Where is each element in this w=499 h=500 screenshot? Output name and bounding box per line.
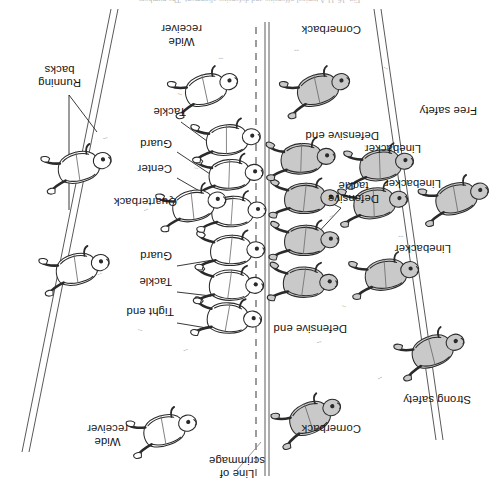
label-center: Center (137, 162, 172, 175)
label-tackle-bot: Tackle (153, 105, 186, 118)
label-tight-end: Tight end (126, 305, 174, 318)
label-defensive-end-up: Defensive end (273, 322, 347, 335)
label-guard-top: Guard (140, 249, 172, 262)
player-figure (193, 228, 266, 274)
label-linebacker-2: Linebacker (385, 177, 441, 190)
label-wide-receiver-top: Wide receiver (87, 423, 128, 448)
label-strong-safety: Strong safety (403, 393, 471, 406)
label-cornerback-bot: Cornerback (302, 23, 361, 36)
player-figure (188, 116, 263, 165)
label-linebacker-1: Linebacker (395, 242, 451, 255)
leader-line-rb-leader-2 (69, 95, 97, 132)
label-defensive-tackle: Defensive tackle (328, 180, 379, 205)
label-linebacker-3: Linebacker (365, 142, 421, 155)
figure-caption: Fig. 16-11 A typical offensive and defen… (0, 0, 499, 4)
label-cornerback-top: Cornerback (302, 422, 361, 435)
label-free-safety: Free safety (419, 104, 477, 117)
label-running-backs: Running backs (38, 64, 81, 89)
player-figure (264, 136, 337, 182)
grass-tuft: ˜˜ (218, 52, 223, 60)
player-figure (267, 218, 340, 264)
grass-tuft: ˜˜ (398, 230, 403, 238)
label-defensive-end-dn: Defensive end (305, 129, 379, 142)
label-guard-bot: Guard (140, 137, 172, 150)
figure-caption-strip: Fig. 16-11 A typical offensive and defen… (0, 0, 499, 9)
player-figure (265, 258, 340, 307)
label-tackle-top: Tackle (139, 275, 172, 288)
grass-tuft: ˜˜ (294, 44, 299, 52)
label-line-of-scrimmage: Line of scrimmage (189, 455, 285, 480)
football-formation-figure: ˜˜˜˜˜˜˜˜˜˜˜˜˜˜˜˜˜˜˜˜˜˜˜˜˜˜˜˜˜˜˜˜˜˜˜˜˜˜˜˜ (0, 9, 499, 500)
label-wide-receiver-bot: Wide receiver (161, 23, 202, 48)
label-quarterback: Quarterback (114, 195, 177, 208)
